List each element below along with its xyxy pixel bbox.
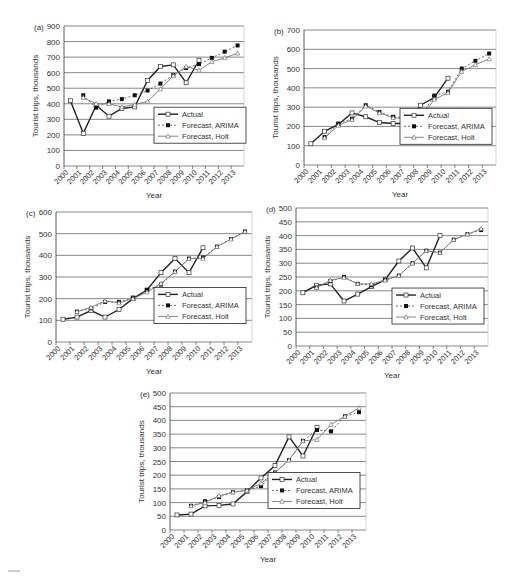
- svg-text:Tourist trips, thousands: Tourist trips, thousands: [263, 236, 272, 318]
- svg-text:400: 400: [279, 232, 293, 241]
- svg-text:Actual: Actual: [182, 290, 203, 299]
- svg-text:150: 150: [279, 301, 293, 310]
- svg-text:600: 600: [47, 69, 61, 78]
- svg-text:(c): (c): [26, 209, 36, 218]
- svg-text:2013: 2013: [471, 167, 489, 185]
- chart-panel-d: 050100150200250300350400450500(d)2000200…: [256, 200, 501, 384]
- svg-text:300: 300: [287, 103, 301, 112]
- svg-text:Year: Year: [146, 191, 163, 198]
- svg-text:Actual: Actual: [182, 110, 203, 119]
- svg-text:2013: 2013: [226, 344, 244, 362]
- svg-text:50: 50: [283, 328, 292, 337]
- svg-text:(b): (b): [274, 27, 284, 36]
- svg-text:350: 350: [153, 430, 167, 439]
- svg-text:450: 450: [279, 218, 293, 227]
- svg-text:200: 200: [287, 122, 301, 131]
- svg-text:Forecast, ARIMA: Forecast, ARIMA: [420, 302, 477, 311]
- svg-text:Year: Year: [260, 555, 277, 564]
- svg-text:2013: 2013: [463, 348, 481, 366]
- svg-text:600: 600: [287, 45, 301, 54]
- svg-text:300: 300: [153, 444, 167, 453]
- svg-text:Forecast, ARIMA: Forecast, ARIMA: [182, 301, 239, 310]
- svg-text:300: 300: [39, 273, 53, 282]
- chart-panel-e: 050100150200250300350400450500(e)2000200…: [128, 385, 378, 577]
- svg-text:(d): (d): [266, 205, 276, 214]
- svg-text:(a): (a): [34, 23, 44, 32]
- svg-text:Tourist trips, thousands: Tourist trips, thousands: [23, 236, 32, 318]
- svg-text:2013: 2013: [340, 532, 358, 550]
- svg-text:100: 100: [153, 499, 167, 508]
- svg-text:Tourist trips, thousands: Tourist trips, thousands: [137, 420, 146, 502]
- svg-text:Tourist trips, thousands: Tourist trips, thousands: [31, 55, 40, 137]
- svg-text:250: 250: [153, 458, 167, 467]
- svg-text:500: 500: [279, 204, 293, 213]
- svg-text:150: 150: [153, 485, 167, 494]
- svg-text:Forecast, Holt: Forecast, Holt: [182, 312, 230, 321]
- svg-text:0: 0: [48, 338, 53, 347]
- svg-text:Actual: Actual: [296, 475, 317, 484]
- chart-panel-a: 0100200300400500600700800900(a)200020012…: [8, 8, 253, 202]
- svg-text:600: 600: [39, 208, 53, 217]
- svg-text:100: 100: [287, 142, 301, 151]
- svg-text:500: 500: [287, 65, 301, 74]
- svg-text:400: 400: [47, 100, 61, 109]
- svg-text:Tourist trips, thousands: Tourist trips, thousands: [271, 56, 280, 138]
- svg-text:400: 400: [39, 251, 53, 260]
- chart-panel-b: 0100200300400500600700(b)200020012002200…: [256, 8, 501, 202]
- svg-text:300: 300: [279, 259, 293, 268]
- svg-text:200: 200: [39, 295, 53, 304]
- svg-text:2011: 2011: [199, 344, 217, 362]
- svg-text:Year: Year: [146, 367, 163, 376]
- chart-panel-c: 0100200300400500600(c)200020012002200320…: [8, 200, 253, 384]
- svg-text:800: 800: [47, 38, 61, 47]
- svg-text:200: 200: [153, 471, 167, 480]
- svg-text:2011: 2011: [313, 532, 331, 550]
- svg-text:0: 0: [296, 161, 301, 170]
- svg-text:500: 500: [39, 230, 53, 239]
- svg-text:500: 500: [153, 389, 167, 398]
- svg-text:Forecast, Holt: Forecast, Holt: [428, 133, 476, 142]
- svg-text:250: 250: [279, 273, 293, 282]
- svg-text:300: 300: [47, 115, 61, 124]
- svg-text:50: 50: [157, 512, 166, 521]
- svg-text:900: 900: [47, 22, 61, 31]
- svg-text:200: 200: [47, 131, 61, 140]
- svg-text:0: 0: [56, 162, 61, 171]
- svg-text:0: 0: [288, 342, 293, 351]
- svg-text:Actual: Actual: [428, 111, 449, 120]
- svg-text:700: 700: [287, 26, 301, 35]
- svg-text:400: 400: [153, 416, 167, 425]
- svg-text:Actual: Actual: [420, 291, 441, 300]
- svg-text:Forecast, ARIMA: Forecast, ARIMA: [182, 121, 239, 130]
- svg-text:Forecast, Holt: Forecast, Holt: [296, 497, 344, 506]
- svg-text:400: 400: [287, 84, 301, 93]
- svg-text:450: 450: [153, 403, 167, 412]
- svg-text:100: 100: [279, 314, 293, 323]
- svg-text:Forecast, Holt: Forecast, Holt: [420, 313, 468, 322]
- svg-text:350: 350: [279, 245, 293, 254]
- svg-text:200: 200: [279, 287, 293, 296]
- svg-text:500: 500: [47, 84, 61, 93]
- svg-text:700: 700: [47, 53, 61, 62]
- svg-text:100: 100: [39, 316, 53, 325]
- svg-text:0: 0: [162, 526, 167, 535]
- svg-text:(e): (e): [140, 390, 150, 399]
- svg-text:Year: Year: [384, 371, 401, 380]
- svg-text:Forecast, ARIMA: Forecast, ARIMA: [428, 122, 485, 131]
- figure-caption-fragment: [8, 570, 20, 572]
- svg-text:100: 100: [47, 146, 61, 155]
- svg-text:Forecast, Holt: Forecast, Holt: [182, 132, 230, 141]
- svg-text:2013: 2013: [219, 168, 237, 186]
- svg-text:Forecast, ARIMA: Forecast, ARIMA: [296, 486, 353, 495]
- svg-text:Year: Year: [392, 190, 409, 198]
